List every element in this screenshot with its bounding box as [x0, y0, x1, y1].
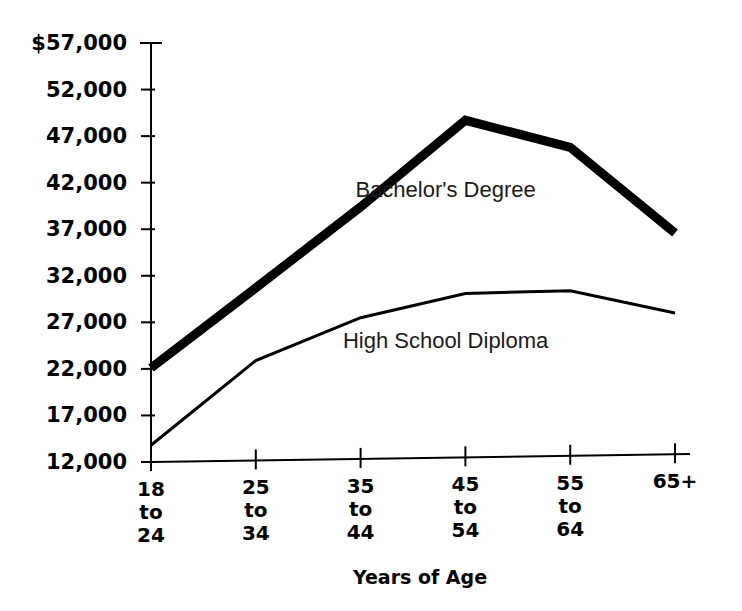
y-axis-tick-label: 37,000: [46, 217, 127, 241]
series-annotations: Bachelor's DegreeHigh School Diploma: [343, 177, 549, 354]
y-axis-tick-label: 52,000: [46, 78, 127, 102]
y-axis-tick-label: 17,000: [46, 403, 127, 427]
y-axis-tick-label: 42,000: [46, 171, 127, 195]
y-axis-tick-label: 47,000: [46, 124, 127, 148]
x-axis-tick-labels: 18to2425to3435to4445to5455to6465+: [137, 469, 697, 547]
x-axis-tick-label: 25to34: [242, 475, 270, 545]
y-axis-tick-label: 27,000: [46, 310, 127, 334]
x-axis-tick-label: 18to24: [137, 477, 165, 547]
series-label-bachelors: Bachelor's Degree: [355, 177, 535, 202]
y-axis-tick-label: 22,000: [46, 357, 127, 381]
x-axis-tick-label: 45to54: [451, 472, 479, 542]
series-label-high-school: High School Diploma: [343, 328, 549, 353]
x-axis-title: Years of Age: [352, 566, 487, 588]
x-axis-line: [151, 454, 690, 462]
y-axis-tick-label: 32,000: [46, 264, 127, 288]
series-line-high-school: [151, 291, 675, 446]
y-axis-tick-label: $57,000: [31, 31, 127, 55]
y-axis-tick-label: 12,000: [46, 450, 127, 474]
x-axis-tick-label: 65+: [653, 469, 698, 493]
x-axis-tick-label: 35to44: [347, 474, 375, 544]
y-axis-tick-labels: $57,00052,00047,00042,00037,00032,00027,…: [31, 31, 127, 474]
chart-container: $57,00052,00047,00042,00037,00032,00027,…: [0, 0, 742, 611]
line-chart: $57,00052,00047,00042,00037,00032,00027,…: [0, 0, 742, 611]
x-axis-tick-label: 55to64: [556, 471, 584, 541]
data-series-group: [151, 120, 675, 445]
